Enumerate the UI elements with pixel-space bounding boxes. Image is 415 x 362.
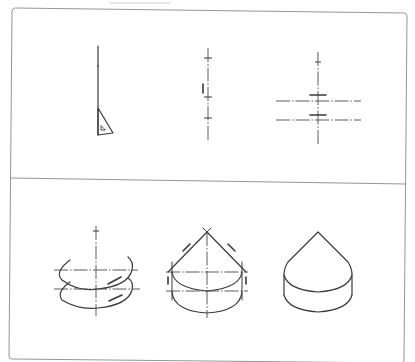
step-6-cone-cylinder-drawing [284,232,352,312]
step-5-cone-construction-drawing [166,228,248,318]
step-2-axis-ticks-drawing [203,48,212,140]
cone-cylinder-icon [284,232,352,292]
step-1-set-square-drawing [97,46,113,135]
set-square-icon [98,108,113,135]
step-3-center-lines-drawing [276,52,361,146]
step-4-ellipses-drawing [54,226,140,316]
panel-divider [10,178,406,184]
diagram-canvas [0,0,415,362]
arrow-icon [108,277,121,284]
arrow-icon [109,295,122,301]
arrow-icon [228,244,235,251]
